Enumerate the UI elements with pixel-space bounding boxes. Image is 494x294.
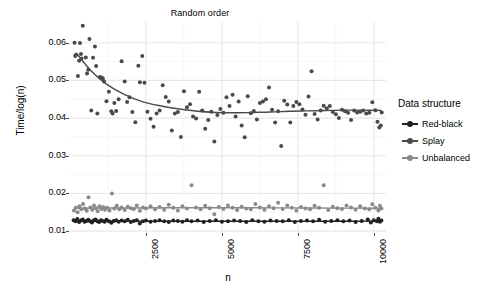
scatter-point xyxy=(190,183,194,187)
scatter-point xyxy=(235,208,239,212)
scatter-point xyxy=(96,209,100,213)
legend-title: Data structure xyxy=(398,98,494,109)
scatter-point xyxy=(328,104,332,108)
scatter-point xyxy=(285,103,289,107)
scatter-point xyxy=(87,37,91,41)
scatter-point xyxy=(291,104,295,108)
scatter-point xyxy=(370,202,374,206)
scatter-point xyxy=(94,64,98,68)
scatter-point xyxy=(346,111,350,115)
legend-item-splay[interactable]: Splay xyxy=(402,132,494,149)
scatter-point xyxy=(84,55,88,59)
scatter-point xyxy=(224,95,228,99)
series-splay xyxy=(73,24,384,148)
scatter-point xyxy=(215,113,219,117)
scatter-point xyxy=(164,95,168,99)
scatter-point xyxy=(243,135,247,139)
scatter-point xyxy=(375,120,379,124)
series-unbalanced xyxy=(72,183,383,216)
scatter-point xyxy=(231,93,235,97)
scatter-point xyxy=(95,112,99,116)
scatter-point xyxy=(85,72,89,76)
y-tick-mark xyxy=(66,80,69,81)
scatter-point xyxy=(264,97,268,101)
scatter-point xyxy=(337,116,341,120)
scatter-point xyxy=(79,52,83,56)
legend-key-icon xyxy=(402,152,418,164)
scatter-point xyxy=(370,100,374,104)
scatter-point xyxy=(310,69,314,73)
scatter-point xyxy=(316,118,320,122)
scatter-point xyxy=(167,100,171,104)
x-axis-tick-group: 25005000750010000 xyxy=(70,233,386,273)
legend-items: Red-blackSplayUnbalanced xyxy=(398,115,494,166)
scatter-point xyxy=(112,101,116,105)
scatter-point xyxy=(212,212,216,216)
scatter-point xyxy=(294,208,298,212)
scatter-point xyxy=(161,83,165,87)
scatter-point xyxy=(182,89,186,93)
scatter-point xyxy=(179,135,183,139)
legend-key-icon xyxy=(402,135,418,147)
scatter-point xyxy=(73,41,77,45)
scatter-point xyxy=(226,203,230,207)
x-tick-mark xyxy=(146,233,147,236)
y-tick-label: 0.02 xyxy=(22,187,66,197)
scatter-point xyxy=(76,74,80,78)
scatter-point xyxy=(334,112,338,116)
x-tick-label: 5000 xyxy=(226,239,236,259)
scatter-point xyxy=(130,110,134,114)
scatter-point xyxy=(197,90,201,94)
scatter-point xyxy=(322,183,326,187)
scatter-point xyxy=(322,104,326,108)
data-layer xyxy=(70,22,386,233)
scatter-point xyxy=(138,209,142,213)
scatter-point xyxy=(78,41,82,45)
scatter-point xyxy=(110,191,114,195)
scatter-point xyxy=(313,112,317,116)
scatter-point xyxy=(135,203,139,207)
scatter-point xyxy=(85,209,89,213)
scatter-point xyxy=(117,97,121,101)
legend-item-unbalanced[interactable]: Unbalanced xyxy=(402,149,494,166)
scatter-point xyxy=(185,105,189,109)
scatter-point xyxy=(303,113,307,117)
scatter-point xyxy=(114,109,118,113)
legend-item-red-black[interactable]: Red-black xyxy=(402,115,494,132)
scatter-point xyxy=(81,202,85,206)
scatter-point xyxy=(120,59,124,63)
scatter-point xyxy=(93,44,97,48)
legend-point-glyph xyxy=(407,138,413,144)
scatter-point xyxy=(125,100,129,104)
scatter-point xyxy=(212,139,216,143)
trend-line xyxy=(75,208,382,209)
scatter-point xyxy=(273,121,277,125)
scatter-point xyxy=(279,144,283,148)
scatter-point xyxy=(140,54,144,58)
scatter-point xyxy=(155,112,159,116)
y-tick-mark xyxy=(66,156,69,157)
scatter-point xyxy=(203,127,207,131)
scatter-point xyxy=(246,94,250,98)
scatter-point xyxy=(115,204,119,208)
legend-label: Red-black xyxy=(422,119,463,129)
legend-key-icon xyxy=(402,118,418,130)
page-title: Random order xyxy=(0,8,400,18)
scatter-point xyxy=(152,125,156,129)
x-tick-mark xyxy=(222,233,223,236)
x-tick-label: 10000 xyxy=(378,239,388,264)
scatter-point xyxy=(138,80,142,84)
scatter-point xyxy=(133,120,137,124)
scatter-point xyxy=(167,203,171,207)
scatter-point xyxy=(282,99,286,103)
y-tick-label: 0.01 xyxy=(22,225,66,235)
scatter-point xyxy=(367,111,371,115)
y-tick-mark xyxy=(66,231,69,232)
scatter-point xyxy=(297,102,301,106)
scatter-point xyxy=(379,124,383,128)
y-tick-label: 0.06 xyxy=(22,37,66,47)
scatter-point xyxy=(145,110,149,114)
scatter-point xyxy=(218,107,222,111)
legend-point-glyph xyxy=(407,155,413,161)
x-tick-label: 2500 xyxy=(150,239,160,259)
